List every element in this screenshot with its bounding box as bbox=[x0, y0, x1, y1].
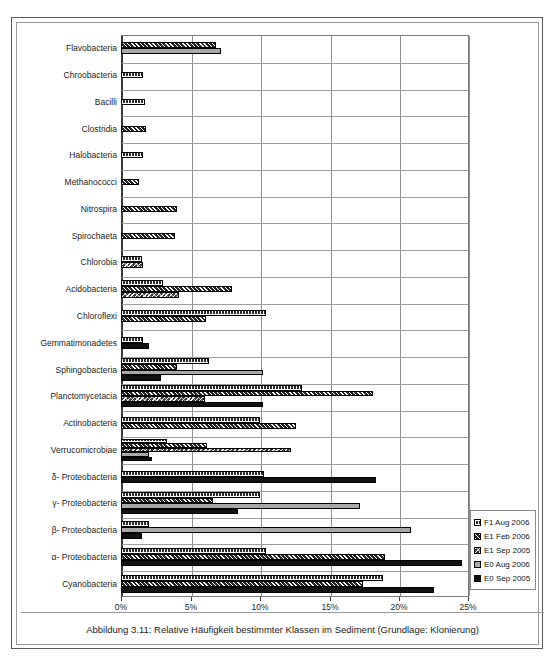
legend-item: F1 Aug 2006 bbox=[474, 515, 532, 529]
legend-label: E1 Sep 2005 bbox=[484, 546, 530, 555]
category-label: Flavobacteria bbox=[11, 43, 117, 53]
category-label: Acidobacteria bbox=[11, 284, 117, 294]
x-axis-tick bbox=[468, 597, 469, 601]
category-label: Methanococci bbox=[11, 177, 117, 187]
legend-item: E1 Sep 2005 bbox=[474, 543, 532, 557]
category-axis-labels: FlavobacteriaChroobacteriaBacilliClostri… bbox=[17, 35, 540, 597]
legend-item: E1 Feb 2006 bbox=[474, 529, 532, 543]
legend-swatch-icon bbox=[474, 561, 481, 568]
x-axis-tick bbox=[191, 597, 192, 601]
x-axis-tick bbox=[399, 597, 400, 601]
category-label: Planctomycetacia bbox=[11, 391, 117, 401]
legend-label: E0 Aug 2006 bbox=[484, 560, 530, 569]
x-axis-tick-label: 20% bbox=[390, 602, 407, 612]
legend-label: F1 Aug 2006 bbox=[484, 518, 529, 527]
legend-swatch-icon bbox=[474, 575, 481, 582]
category-label: Cyanobacteria bbox=[11, 579, 117, 589]
category-label: Verrucomicrobiae bbox=[11, 445, 117, 455]
category-label: α- Proteobacteria bbox=[11, 552, 117, 562]
legend-swatch-icon bbox=[474, 533, 481, 540]
category-label: Halobacteria bbox=[11, 150, 117, 160]
category-label: β- Proteobacteria bbox=[11, 525, 117, 535]
figure-caption: Abbildung 3.11: Relative Häufigkeit best… bbox=[86, 624, 479, 635]
x-axis-tick bbox=[330, 597, 331, 601]
x-axis-tick bbox=[121, 597, 122, 601]
x-axis-tick bbox=[260, 597, 261, 601]
legend-item: E0 Sep 2005 bbox=[474, 571, 532, 585]
category-label: Gemmatimonadetes bbox=[11, 338, 117, 348]
category-label: Chloroflexi bbox=[11, 311, 117, 321]
legend-item: E0 Aug 2006 bbox=[474, 557, 532, 571]
legend-swatch-icon bbox=[474, 519, 481, 526]
chart-legend: F1 Aug 2006E1 Feb 2006E1 Sep 2005E0 Aug … bbox=[470, 510, 536, 590]
x-axis-tick-label: 15% bbox=[321, 602, 338, 612]
category-label: Chroobacteria bbox=[11, 70, 117, 80]
category-label: δ- Proteobacteria bbox=[11, 472, 117, 482]
category-label: γ- Proteobacteria bbox=[11, 498, 117, 508]
category-label: Bacilli bbox=[11, 97, 117, 107]
figure-caption-box: Abbildung 3.11: Relative Häufigkeit best… bbox=[21, 612, 544, 646]
legend-label: E1 Feb 2006 bbox=[484, 532, 530, 541]
category-label: Nitrospira bbox=[11, 204, 117, 214]
legend-label: E0 Sep 2005 bbox=[484, 574, 530, 583]
legend-swatch-icon bbox=[474, 547, 481, 554]
category-label: Actinobacteria bbox=[11, 418, 117, 428]
figure-inner-frame: FlavobacteriaChroobacteriaBacilliClostri… bbox=[16, 22, 539, 645]
chart-area: FlavobacteriaChroobacteriaBacilliClostri… bbox=[17, 23, 540, 608]
figure-frame: FlavobacteriaChroobacteriaBacilliClostri… bbox=[11, 17, 543, 649]
x-axis-tick-label: 25% bbox=[459, 602, 476, 612]
category-label: Sphingobacteria bbox=[11, 365, 117, 375]
category-label: Clostridia bbox=[11, 124, 117, 134]
x-axis-tick-label: 10% bbox=[251, 602, 268, 612]
x-axis-tick-label: 5% bbox=[185, 602, 197, 612]
x-axis-tick-label: 0% bbox=[115, 602, 127, 612]
category-label: Spirochaeta bbox=[11, 231, 117, 241]
category-label: Chlorobia bbox=[11, 257, 117, 267]
